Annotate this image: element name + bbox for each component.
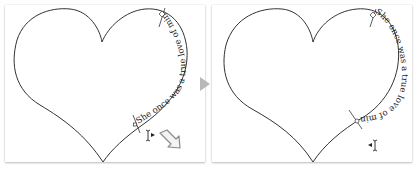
path-text-after[interactable]: She once was a true love of mine [212,5,410,125]
text-start-marker[interactable] [370,9,376,27]
play-arrow-icon [200,77,210,91]
panel-before: She once was a true love of mine [5,5,205,162]
heart-canvas-before: She once was a true love of mine [5,5,205,162]
heart-path-after[interactable] [224,9,399,162]
panel-after: She once was a true love of mine [212,5,412,162]
ibeam-cursor-icon [368,140,377,151]
heart-canvas-after: She once was a true love of mine [212,5,412,162]
ibeam-cursor-icon [146,130,155,141]
drag-arrow-icon [160,130,180,148]
heart-path-before[interactable] [14,9,187,162]
